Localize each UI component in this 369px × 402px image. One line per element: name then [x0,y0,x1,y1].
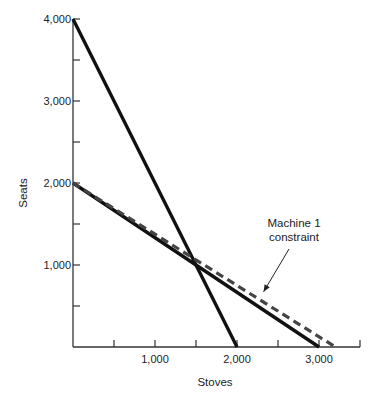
annotation-arrowhead [264,284,270,292]
y-tick-label: 3,000 [43,95,71,107]
ticks [73,19,360,347]
x-tick-label: 1,000 [141,353,169,365]
axes [73,19,360,347]
chart: 1,0002,0003,0001,0002,0003,0004,000 Stov… [0,0,369,402]
y-tick-label: 1,000 [43,259,71,271]
y-tick-label: 4,000 [43,13,71,25]
y-tick-label: 2,000 [43,177,71,189]
y-axis-title: Seats [17,178,29,208]
annotation-line-2: constraint [269,231,320,243]
series [73,19,335,347]
annotation-line-1: Machine 1 [267,217,320,229]
x-tick-label: 3,000 [305,353,333,365]
x-axis-title: Stoves [197,376,232,388]
tick-labels: 1,0002,0003,0001,0002,0003,0004,000 [43,13,332,365]
annotation: Machine 1 constraint [264,217,321,292]
series-line-constraint-steep [73,19,237,347]
x-tick-label: 2,000 [223,353,251,365]
series-line-machine-1-constraint [73,183,335,347]
annotation-arrow [264,249,289,292]
